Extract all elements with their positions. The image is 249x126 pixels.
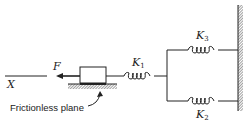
force-label: F [52,60,61,73]
k3-label: K3 [195,29,209,43]
frictionless-plane-surface [68,84,117,89]
force-arrow [56,73,80,79]
k1-label: K1 [131,56,145,70]
x-axis-label: X [6,78,16,91]
caption-pointer-arrow [88,91,103,106]
spring-k1 [106,72,167,79]
spring-k2 [167,97,238,104]
k2-label: K2 [195,108,209,122]
spring-mass-diagram: X F Frictionless plane K1 K3 K2 [0,0,249,126]
spring-k3 [167,46,238,53]
frictionless-plane-caption: Frictionless plane [10,102,84,113]
mass-block [80,67,106,83]
fixed-wall [238,5,243,111]
